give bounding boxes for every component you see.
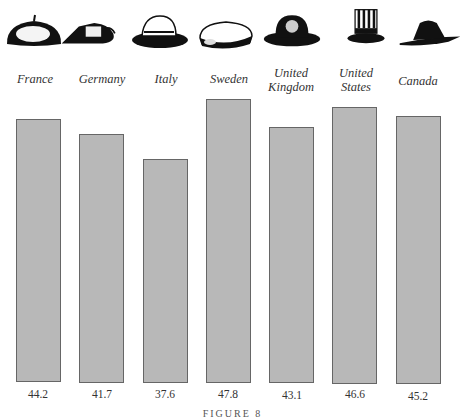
label-italy: Italy xyxy=(130,72,202,86)
mountie-campaign-hat-icon xyxy=(398,8,462,50)
value-united-kingdom: 43.1 xyxy=(262,389,322,401)
bar-canada xyxy=(396,116,441,384)
label-france: France xyxy=(0,72,71,86)
figure-caption: FIGURE 8 xyxy=(0,408,465,417)
value-france: 44.2 xyxy=(8,388,68,400)
bar-france xyxy=(16,119,61,382)
value-italy: 37.6 xyxy=(135,388,195,400)
beret-icon xyxy=(4,8,64,50)
label-canada: Canada xyxy=(382,74,454,88)
label-germany: Germany xyxy=(66,72,138,86)
bar-germany xyxy=(79,134,124,383)
fedora-icon xyxy=(130,8,190,50)
label-uk-line1: United xyxy=(255,66,327,80)
uncle-sam-top-hat-icon xyxy=(336,8,396,50)
label-uk-line2: Kingdom xyxy=(255,80,327,94)
value-united-states: 46.6 xyxy=(325,388,385,400)
student-cap-icon xyxy=(196,8,256,50)
bar-united-kingdom xyxy=(269,127,314,383)
bar-italy xyxy=(143,159,188,383)
bowler-hat-icon xyxy=(262,8,322,50)
label-united-kingdom: United Kingdom xyxy=(255,66,327,94)
bar-sweden xyxy=(206,99,251,383)
bar-united-states xyxy=(332,107,377,384)
alpine-hat-icon xyxy=(60,8,120,50)
value-sweden: 47.8 xyxy=(198,388,258,400)
value-canada: 45.2 xyxy=(388,390,448,402)
value-germany: 41.7 xyxy=(72,388,132,400)
